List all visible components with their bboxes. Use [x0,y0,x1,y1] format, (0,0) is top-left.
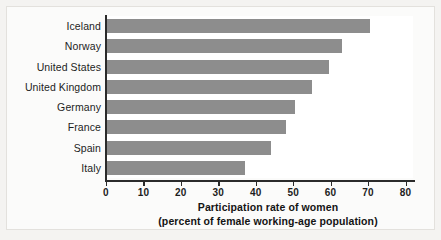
bar-germany [106,100,295,114]
x-tick-label-30: 30 [213,187,225,198]
x-tick-label-80: 80 [400,187,412,198]
category-label-spain: Spain [1,142,101,154]
x-tick-label-0: 0 [103,187,109,198]
x-axis-title-line-2: (percent of female working-age populatio… [113,214,423,228]
x-tick-70 [368,181,369,186]
x-tick-60 [331,181,332,186]
x-axis-title-line-1: Participation rate of women [198,201,338,213]
x-tick-50 [293,181,294,186]
x-tick-80 [406,181,407,186]
bar-iceland [106,19,370,33]
bar-united-states [106,60,329,74]
x-tick-label-50: 50 [287,187,299,198]
category-axis-labels: IcelandNorwayUnited StatesUnited Kingdom… [0,0,101,240]
x-tick-label-70: 70 [362,187,374,198]
x-tick-label-20: 20 [175,187,187,198]
x-tick-label-40: 40 [250,187,262,198]
x-tick-0 [106,181,107,186]
bar-norway [106,39,342,53]
figure-container: IcelandNorwayUnited StatesUnited Kingdom… [0,0,441,240]
bar-italy [106,161,245,175]
x-tick-10 [143,181,144,186]
bar-united-kingdom [106,80,312,94]
bar-spain [106,141,271,155]
bar-chart: IcelandNorwayUnited StatesUnited Kingdom… [0,0,441,240]
x-tick-30 [218,181,219,186]
category-label-iceland: Iceland [1,20,101,32]
category-label-italy: Italy [1,162,101,174]
y-axis-line [105,15,107,181]
x-axis-title: Participation rate of women (percent of … [113,200,423,228]
x-tick-label-60: 60 [325,187,337,198]
category-label-germany: Germany [1,101,101,113]
x-tick-40 [256,181,257,186]
category-label-united-states: United States [1,61,101,73]
bar-france [106,120,286,134]
category-label-united-kingdom: United Kingdom [1,81,101,93]
category-label-france: France [1,121,101,133]
category-label-norway: Norway [1,40,101,52]
x-tick-20 [181,181,182,186]
x-tick-label-10: 10 [138,187,150,198]
